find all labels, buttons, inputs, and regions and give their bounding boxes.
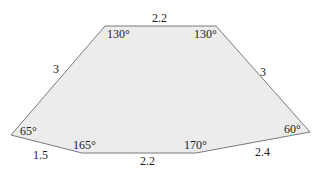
angle-label-top-right: 130° <box>194 28 217 40</box>
angle-label-left: 65° <box>20 125 37 137</box>
hexagon-diagram <box>0 0 321 176</box>
side-label-lower-right: 2.4 <box>255 146 270 158</box>
side-label-lower-left: 1.5 <box>33 149 48 161</box>
angle-label-top-left: 130° <box>107 28 130 40</box>
hexagon-shape <box>11 26 310 153</box>
side-label-upper-left: 3 <box>53 63 59 75</box>
angle-label-bottom-left: 165° <box>73 139 96 151</box>
side-label-bottom: 2.2 <box>140 155 155 167</box>
angle-label-bottom-right: 170° <box>184 139 207 151</box>
side-label-upper-right: 3 <box>260 66 266 78</box>
side-label-top: 2.2 <box>152 12 167 24</box>
angle-label-right: 60° <box>284 123 301 135</box>
